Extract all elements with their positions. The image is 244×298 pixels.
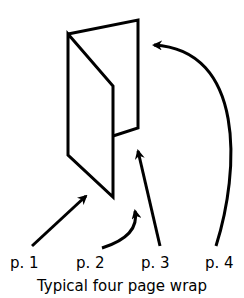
label-p1: p. 1 <box>10 256 39 271</box>
arrow-p2 <box>102 211 136 248</box>
arrow-p1 <box>32 196 86 246</box>
label-p4: p. 4 <box>205 256 234 271</box>
left-panel-outline <box>68 34 113 197</box>
arrow-p4 <box>154 45 231 246</box>
folded-sheet <box>68 20 138 197</box>
arrows <box>32 45 231 248</box>
arrow-p3 <box>138 151 160 246</box>
label-p3: p. 3 <box>141 256 170 271</box>
label-p2: p. 2 <box>76 256 105 271</box>
diagram-caption: Typical four page wrap <box>0 279 244 294</box>
